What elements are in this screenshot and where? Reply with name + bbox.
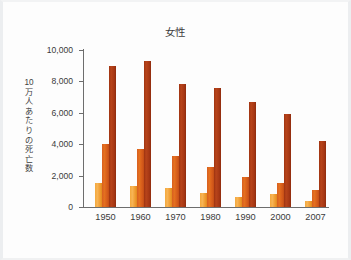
bar: [165, 188, 172, 207]
chart-figure: 女性 10万人あたりの死亡数 10,0008,0006,0004,0002,00…: [0, 0, 351, 260]
x-tick-label: 1990: [226, 212, 266, 222]
bar: [102, 144, 109, 207]
y-tick-mark: [79, 207, 84, 208]
x-tick-label: 1970: [156, 212, 196, 222]
x-tick-label: 1960: [121, 212, 161, 222]
bar: [312, 190, 319, 207]
bar: [207, 167, 214, 207]
bar: [95, 183, 102, 207]
bar: [284, 114, 291, 207]
bar: [214, 88, 221, 207]
bar: [144, 61, 151, 207]
bar: [235, 197, 242, 207]
bar: [270, 194, 277, 207]
x-tick-label: 2000: [261, 212, 301, 222]
bar: [200, 193, 207, 207]
y-tick-label: 2,000: [13, 171, 73, 181]
bar: [137, 149, 144, 207]
y-tick-label: 4,000: [13, 139, 73, 149]
chart-title: 女性: [0, 24, 351, 39]
x-tick-label: 2007: [296, 212, 336, 222]
y-tick-label: 8,000: [13, 76, 73, 86]
bar-group: [305, 50, 326, 207]
x-tick-label: 1980: [191, 212, 231, 222]
bar: [179, 84, 186, 207]
x-axis-line: [83, 207, 329, 208]
bar-group: [130, 50, 151, 207]
y-tick-label: 6,000: [13, 108, 73, 118]
bar-group: [235, 50, 256, 207]
x-tick-label: 1950: [86, 212, 126, 222]
bar: [277, 183, 284, 207]
bar: [109, 66, 116, 207]
bar: [249, 102, 256, 207]
bar-group: [270, 50, 291, 207]
y-axis-label: 10万人あたりの死亡数: [22, 78, 36, 174]
y-tick-label: 10,000: [13, 45, 73, 55]
bar: [305, 201, 312, 207]
bar-group: [200, 50, 221, 207]
bar: [172, 156, 179, 207]
y-tick-label: 0: [13, 202, 73, 212]
bar: [242, 177, 249, 207]
bar-group: [95, 50, 116, 207]
bar: [319, 141, 326, 207]
plot-area: [83, 50, 328, 207]
bar: [130, 186, 137, 207]
bar-group: [165, 50, 186, 207]
